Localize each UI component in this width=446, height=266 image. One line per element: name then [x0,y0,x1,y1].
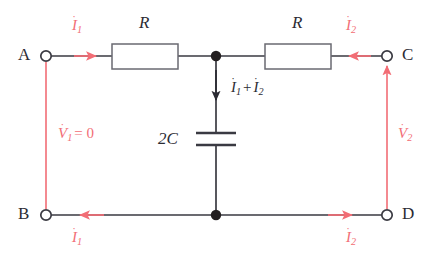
junction-dot-top-center [211,51,221,61]
terminal-node-d[interactable] [382,210,392,220]
resistor-right-body [265,44,331,69]
dot-accent-icon: ˙ [231,76,235,88]
plus-operator: + [241,79,253,95]
capacitor-plates [196,133,236,145]
dot-accent-icon: ˙ [400,122,404,134]
i1-bottom-symbol: ˙I [72,230,77,245]
current-label-i2-top: ˙I2 [346,18,356,35]
resistor-left-body [112,44,178,69]
capacitor-label: 2C [158,130,178,147]
sum-i2-symbol: ˙I [254,80,259,95]
voltage-label-v2: ˙V2 [398,126,412,143]
sum-i1-symbol: ˙I [231,80,236,95]
dot-accent-icon: ˙ [254,76,258,88]
i1-top-subscript: 1 [77,24,82,35]
voltage-label-v1: ˙V1= 0 [58,126,96,143]
v1-symbol: ˙V [58,126,67,141]
terminal-node-b[interactable] [41,210,51,220]
terminal-label-c: C [402,46,413,63]
resistor-left-label: R [139,14,149,31]
current-label-i1-bottom: ˙I1 [72,230,82,247]
dot-accent-icon: ˙ [72,226,76,238]
i2-bottom-subscript: 2 [351,236,356,247]
terminal-node-c[interactable] [382,51,392,61]
i2-top-symbol: ˙I [346,18,351,33]
current-label-i1-top: ˙I1 [72,18,82,35]
dot-accent-icon: ˙ [60,122,64,134]
current-label-i2-bottom: ˙I2 [346,230,356,247]
terminal-label-b: B [18,205,29,222]
dot-accent-icon: ˙ [346,226,350,238]
i2-top-subscript: 2 [351,24,356,35]
junction-dot-bottom-center [211,210,221,220]
dot-accent-icon: ˙ [72,14,76,26]
current-label-i1-plus-i2: ˙I1+ ˙I2 [231,80,264,97]
current-direction-arrows [74,56,371,215]
v1-equals-zero: = 0 [72,125,96,141]
v2-subscript: 2 [407,132,412,143]
i2-bottom-symbol: ˙I [346,230,351,245]
i1-top-symbol: ˙I [72,18,77,33]
sum-i2-subscript: 2 [259,86,264,97]
terminal-label-d: D [402,205,414,222]
v2-symbol: ˙V [398,126,407,141]
i1-bottom-subscript: 1 [77,236,82,247]
resistor-right-label: R [292,14,302,31]
terminal-node-a[interactable] [41,51,51,61]
terminal-label-a: A [18,46,30,63]
circuit-diagram-canvas: A C B D R R 2C ˙I1 ˙I2 ˙I1+ ˙I2 ˙I1 ˙I2 … [0,0,446,266]
dot-accent-icon: ˙ [346,14,350,26]
